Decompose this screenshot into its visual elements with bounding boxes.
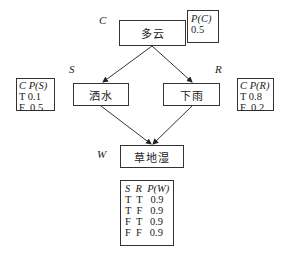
var-label-w: W [97, 148, 106, 160]
var-label-c: C [99, 14, 106, 26]
node-sprinkler-label: 洒水 [89, 87, 113, 103]
cpt-w-row: T T 0.9 [125, 194, 169, 205]
cpt-r-row: F 0.2 [240, 102, 271, 113]
cpt-c-row: 0.5 [191, 24, 215, 35]
var-label-s: S [69, 63, 75, 75]
cpt-r-header: C P(R) [240, 80, 271, 91]
cpt-w: S R P(W) T T 0.9 T F 0.9 F T 0.9 F F 0.9 [120, 180, 174, 246]
edge-s-w [101, 106, 151, 144]
node-cloudy-label: 多云 [141, 25, 165, 41]
cpt-s-row: T 0.1 [19, 91, 52, 102]
node-rain-label: 下雨 [180, 87, 204, 103]
edge-r-w [153, 106, 192, 144]
node-wetgrass: 草地湿 [120, 145, 184, 168]
node-rain: 下雨 [163, 83, 220, 106]
cpt-w-row: F T 0.9 [125, 216, 169, 227]
edge-c-s [103, 46, 152, 82]
edge-c-r [152, 46, 192, 82]
cpt-c: P(C) 0.5 [187, 10, 219, 43]
node-cloudy: 多云 [119, 20, 186, 46]
cpt-r: C P(R) T 0.8 F 0.2 [237, 78, 274, 111]
cpt-r-row: T 0.8 [240, 91, 271, 102]
cpt-s-header: C P(S) [19, 80, 52, 91]
cpt-s: C P(S) T 0.1 F 0.5 [16, 78, 55, 111]
cpt-w-row: F F 0.9 [125, 227, 169, 238]
cpt-w-header: S R P(W) [125, 183, 169, 194]
var-label-r: R [215, 63, 222, 75]
node-sprinkler: 洒水 [73, 83, 129, 106]
cpt-s-row: F 0.5 [19, 102, 52, 113]
cpt-w-row: T F 0.9 [125, 205, 169, 216]
cpt-c-header: P(C) [191, 13, 215, 24]
node-wetgrass-label: 草地湿 [134, 149, 170, 165]
